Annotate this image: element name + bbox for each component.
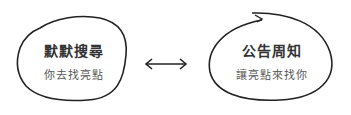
node-public-announcement: 公告周知 讓亮點來找你 <box>214 40 330 82</box>
node-title: 公告周知 <box>214 40 330 60</box>
node-silent-search: 默默搜尋 你去找亮點 <box>22 40 126 82</box>
node-title: 默默搜尋 <box>22 40 126 60</box>
node-subtitle: 讓亮點來找你 <box>214 66 330 82</box>
node-subtitle: 你去找亮點 <box>22 66 126 82</box>
double-arrow-icon <box>146 59 186 69</box>
